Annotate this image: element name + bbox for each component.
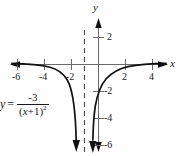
- equation-lhs: y: [0, 97, 7, 112]
- y-tick-label--6: -6: [104, 140, 112, 150]
- curve-left-arrow-icon: [73, 140, 80, 152]
- equation-exponent: 2: [43, 104, 47, 112]
- y-axis-arrow-down-icon: [95, 142, 101, 152]
- y-axis: [95, 18, 101, 152]
- equation-fraction: -3 (x+1)2: [17, 92, 48, 117]
- equation-denominator-addend: +1: [28, 105, 40, 117]
- equation-numerator: -3: [25, 92, 40, 104]
- x-axis-label: x: [170, 58, 175, 68]
- y-axis-label: y: [93, 2, 98, 12]
- curve-right-branch: [93, 63, 166, 140]
- curve-right-arrow-icon: [89, 141, 96, 153]
- equation-equals-sign: =: [7, 97, 17, 112]
- graph-figure: -6 -4 -2 2 4 2 -2 -4 -6 y x y = -3 (x+1)…: [0, 0, 178, 156]
- y-tick-label--2: -2: [104, 86, 112, 96]
- equation-denominator: (x+1)2: [17, 105, 48, 118]
- x-tick-label-4: 4: [149, 72, 154, 82]
- y-tick-label--4: -4: [104, 113, 112, 123]
- x-tick-label-2: 2: [122, 72, 127, 82]
- x-tick-label--4: -4: [39, 72, 47, 82]
- x-axis-arrow-right-icon: [158, 61, 168, 68]
- x-axis-arrow-left-icon: [10, 61, 20, 68]
- x-tick-label--6: -6: [12, 72, 20, 82]
- equation-annotation: y = -3 (x+1)2: [0, 92, 49, 117]
- y-axis-arrow-up-icon: [95, 18, 101, 28]
- y-tick-label-2: 2: [107, 32, 112, 42]
- x-tick-label--2: -2: [66, 72, 74, 82]
